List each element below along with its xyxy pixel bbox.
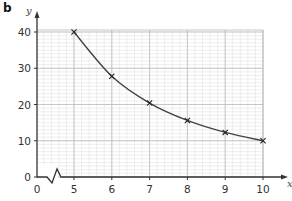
x-tick-label: 0 xyxy=(34,183,41,195)
x-tick-label: 10 xyxy=(256,183,269,195)
y-axis-label: y xyxy=(25,5,32,16)
x-tick-label: 7 xyxy=(146,183,153,195)
x-tick-label: 9 xyxy=(222,183,229,195)
y-tick-label: 20 xyxy=(18,99,31,111)
y-tick-label: 10 xyxy=(18,135,31,147)
chart: 05678910010203040xy xyxy=(0,0,292,201)
y-tick-label: 0 xyxy=(24,171,31,183)
y-tick-label: 40 xyxy=(18,26,31,38)
y-axis-arrow-icon xyxy=(35,11,40,18)
x-tick-label: 5 xyxy=(71,183,78,195)
x-tick-label: 6 xyxy=(108,183,115,195)
x-tick-label: 8 xyxy=(184,183,191,195)
x-axis-label: x xyxy=(287,178,292,189)
part-label: b xyxy=(3,1,12,15)
y-tick-label: 30 xyxy=(18,62,31,74)
